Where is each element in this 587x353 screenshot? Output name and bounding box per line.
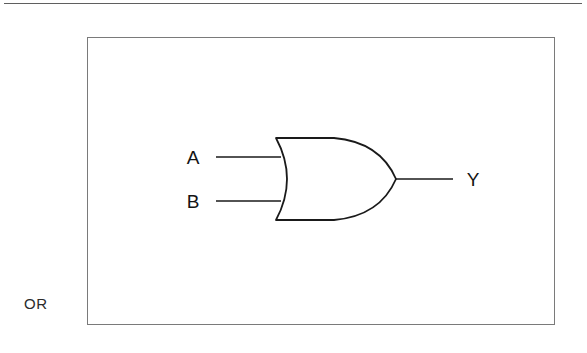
input-b-label: B	[187, 191, 200, 212]
figure-panel: A B Y	[87, 37, 555, 325]
gate-name-label: OR	[24, 296, 48, 312]
or-gate-body	[276, 138, 396, 220]
output-y-label: Y	[467, 169, 480, 190]
or-gate-schematic: A B Y	[88, 38, 556, 326]
input-a-label: A	[187, 147, 200, 168]
top-horizontal-rule	[4, 3, 582, 4]
